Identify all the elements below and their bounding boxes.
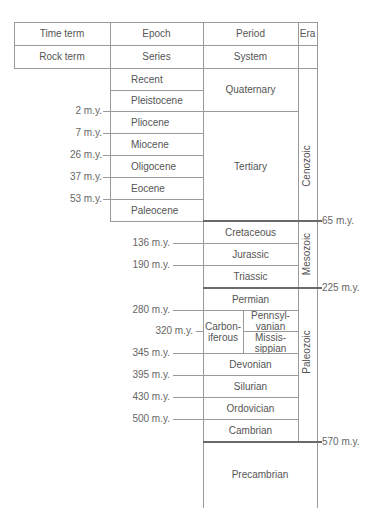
header-system: System [203,45,298,68]
period-jurassic: Jurassic [203,244,298,265]
header-epoch: Epoch [110,22,203,45]
label-570my: 570 m.y. [322,436,360,448]
label-7my: 7 m.y. [22,127,102,139]
header-period: Period [203,22,298,45]
subperiod-mississippian: Missis- sippian [243,332,298,353]
boundary-7my [103,133,203,134]
era-left-border [298,22,299,443]
mississippian-line2: sippian [255,343,287,354]
period-carboniferous: Carbon- iferous [203,311,243,353]
pennsylvanian-line2: vanian [256,321,285,332]
epoch-oligocene: Oligocene [131,161,176,173]
period-quaternary: Quaternary [203,68,298,111]
label-136my: 136 m.y. [90,237,170,249]
header-time-term: Time term [14,22,110,45]
carboniferous-line2: iferous [208,332,238,343]
period-ordovician: Ordovician [203,398,298,419]
label-500my: 500 m.y. [90,413,170,425]
era-cenozoic: Cenozoic [301,126,313,206]
label-225my: 225 m.y. [322,282,360,294]
boundary-26my [103,155,203,156]
period-precambrian: Precambrian [203,443,317,505]
label-320my: 320 m.y. [113,325,193,337]
boundary-37my [103,177,203,178]
tick-320my [196,331,203,332]
period-devonian: Devonian [203,354,298,375]
label-345my: 345 m.y. [90,347,170,359]
label-280my: 280 m.y. [90,304,170,316]
header-era: Era [298,22,317,45]
pennsylvanian-line1: Pennsyl- [251,310,290,321]
subperiod-pennsylvanian: Pennsyl- vanian [243,310,298,331]
label-65my: 65 m.y. [322,215,354,227]
epoch-pliocene: Pliocene [131,117,169,129]
period-triassic: Triassic [203,266,298,287]
period-permian: Permian [203,289,298,310]
era-paleozoic: Paleozoic [301,312,313,392]
carboniferous-line1: Carbon- [205,321,241,332]
boundary-53my [103,199,203,200]
epoch-pleistocene: Pleistocene [131,95,183,107]
header-series: Series [110,45,203,68]
era-mesozoic: Mesozoic [301,214,313,294]
label-430my: 430 m.y. [90,391,170,403]
label-395my: 395 m.y. [90,369,170,381]
era-right-border [317,22,318,508]
label-190my: 190 m.y. [90,259,170,271]
mississippian-line1: Missis- [255,332,286,343]
label-2my: 2 m.y. [22,105,102,117]
epoch-paleocene: Paleocene [131,205,178,217]
period-tertiary: Tertiary [203,111,298,221]
label-26my: 26 m.y. [22,149,102,161]
epoch-bottom-border [110,221,203,222]
period-cambrian: Cambrian [203,420,298,441]
epoch-miocene: Miocene [131,139,169,151]
epoch-recent: Recent [131,74,163,86]
period-cretaceous: Cretaceous [203,222,298,243]
label-37my: 37 m.y. [22,171,102,183]
label-53my: 53 m.y. [22,193,102,205]
header-rock-term: Rock term [14,45,110,68]
epoch-divider [110,90,203,91]
epoch-eocene: Eocene [131,183,165,195]
period-silurian: Silurian [203,376,298,397]
